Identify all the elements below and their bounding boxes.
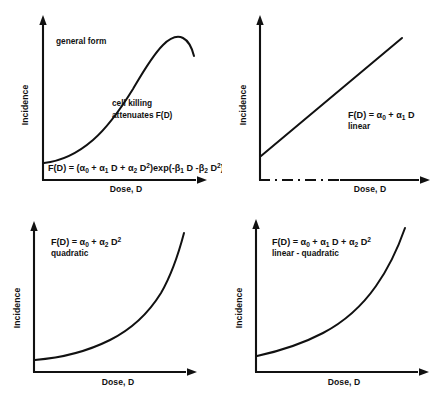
dose-response-figure: Incidence Dose, D general form cell kill… (0, 0, 445, 403)
subcaption-linear-quadratic: linear - quadratic (272, 248, 339, 258)
y-axis-quadratic (30, 221, 37, 372)
x-axis-quadratic (33, 368, 197, 375)
annotation-cell-killing-line2: attenuates F(D) (112, 110, 173, 120)
formula-linear-quadratic: F(D) = α0 + α1 D + α2 D2 (272, 236, 371, 249)
annotation-cell-killing-line1: cell killing (112, 98, 152, 108)
x-axis-linear (259, 176, 430, 183)
y-axis-general (39, 15, 46, 180)
annotation-general-form: general form (56, 36, 106, 46)
subcaption-linear: linear (348, 121, 371, 131)
formula-general-form: F(D) = (α0 + α1 D + α2 D2)exp(-β1 D -β2 … (48, 162, 222, 175)
y-axis-label-linear: Incidence (238, 85, 248, 126)
panel-linear: Incidence Dose, D F(D) = α0 + α1 D linea… (222, 0, 445, 200)
x-axis-general (42, 176, 207, 183)
x-axis-label-linear-quadratic: Dose, D (328, 377, 361, 387)
panel-quadratic: Incidence Dose, D F(D) = α0 + α2 D2 quad… (0, 200, 222, 403)
panel-linear-quadratic: Incidence Dose, D F(D) = α0 + α1 D + α2 … (222, 200, 445, 403)
y-axis-label-linear-quadratic: Incidence (234, 288, 244, 329)
y-axis-label-general: Incidence (20, 85, 30, 126)
curve-linear (261, 38, 402, 156)
y-axis-linear-quadratic (252, 219, 259, 372)
x-axis-label-linear: Dose, D (354, 184, 387, 194)
y-axis-label-quadratic: Incidence (12, 288, 22, 329)
formula-quadratic: F(D) = α0 + α2 D2 (51, 236, 122, 249)
subcaption-quadratic: quadratic (51, 248, 89, 258)
x-axis-linear-quadratic (255, 368, 429, 375)
formula-linear: F(D) = α0 + α1 D (348, 110, 415, 121)
x-axis-label-quadratic: Dose, D (102, 377, 135, 387)
x-axis-label-general: Dose, D (110, 184, 143, 194)
panel-general-form: Incidence Dose, D general form cell kill… (0, 0, 222, 200)
